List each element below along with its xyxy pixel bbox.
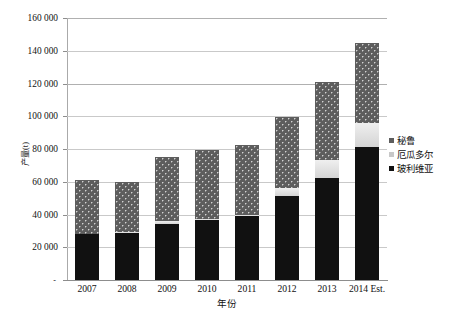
bar-group[interactable] — [355, 43, 380, 280]
x-axis-tick-label: 2008 — [117, 283, 136, 294]
y-axis-tick-label: 140 000 — [28, 46, 58, 56]
y-axis-tick-label: 40 000 — [32, 210, 58, 220]
y-axis-tick-label: - — [53, 276, 56, 285]
plot-area — [67, 18, 387, 280]
bar-segment-bolivia[interactable] — [155, 224, 180, 280]
bar-segment-peru[interactable] — [355, 43, 380, 123]
bar-segment-peru[interactable] — [315, 82, 340, 161]
y-axis-tick-labels: 160 000140 000120 000100 00080 00060 000… — [0, 0, 65, 316]
x-axis-tick-label: 2014 Est. — [349, 283, 385, 294]
bar-segment-peru[interactable] — [275, 117, 300, 188]
x-axis-line — [67, 280, 388, 281]
bar-segment-ecuador[interactable] — [355, 123, 380, 148]
bar-segment-peru[interactable] — [155, 157, 180, 221]
bar-segment-bolivia[interactable] — [235, 216, 260, 280]
legend-label: 玻利维亚 — [397, 161, 433, 175]
bar-segment-ecuador[interactable] — [275, 188, 300, 195]
legend-swatch-icon — [389, 166, 394, 171]
bar-segment-ecuador[interactable] — [315, 160, 340, 178]
bar-group[interactable] — [275, 117, 300, 280]
x-axis-title: 年份 — [67, 296, 387, 310]
x-axis-tick-label: 2013 — [317, 283, 336, 294]
bar-segment-peru[interactable] — [195, 150, 220, 219]
stacked-bar-chart: 产量(t) 160 000140 000120 000100 00080 000… — [0, 0, 458, 316]
legend-swatch-icon — [389, 138, 394, 143]
x-axis-tick-label: 2011 — [238, 283, 257, 294]
y-axis-tick-label: 20 000 — [32, 242, 58, 252]
bar-segment-peru[interactable] — [75, 180, 100, 234]
y-axis-tick-label: 100 000 — [28, 111, 58, 121]
bar-group[interactable] — [155, 157, 180, 280]
x-axis-tick-label: 2007 — [77, 283, 96, 294]
legend-swatch-icon — [389, 152, 394, 157]
y-axis-tick-label: 80 000 — [32, 144, 58, 154]
x-axis-tick-label: 2009 — [157, 283, 176, 294]
bar-group[interactable] — [235, 145, 260, 280]
bar-group[interactable] — [115, 182, 140, 280]
legend-item-ecuador[interactable]: 厄瓜多尔 — [389, 147, 457, 161]
bars-layer — [67, 18, 387, 280]
y-axis-tick-label: 60 000 — [32, 177, 58, 187]
bar-segment-bolivia[interactable] — [195, 220, 220, 280]
bar-group[interactable] — [315, 82, 340, 280]
bar-group[interactable] — [75, 180, 100, 280]
bar-segment-peru[interactable] — [235, 145, 260, 215]
legend-label: 秘鲁 — [397, 133, 415, 147]
x-axis-tick-label: 2012 — [277, 283, 296, 294]
legend-label: 厄瓜多尔 — [397, 147, 433, 161]
bar-segment-bolivia[interactable] — [315, 178, 340, 280]
chart-legend: 秘鲁厄瓜多尔玻利维亚 — [389, 133, 457, 175]
x-axis-tick-label: 2010 — [197, 283, 216, 294]
bar-segment-bolivia[interactable] — [75, 234, 100, 280]
bar-group[interactable] — [195, 150, 220, 280]
bar-segment-bolivia[interactable] — [115, 233, 140, 280]
y-axis-tick-label: 120 000 — [28, 79, 58, 89]
bar-segment-bolivia[interactable] — [275, 196, 300, 280]
y-axis-tick-label: 160 000 — [28, 13, 58, 23]
bar-segment-bolivia[interactable] — [355, 147, 380, 280]
bar-segment-peru[interactable] — [115, 182, 140, 232]
legend-item-bolivia[interactable]: 玻利维亚 — [389, 161, 457, 175]
legend-item-peru[interactable]: 秘鲁 — [389, 133, 457, 147]
